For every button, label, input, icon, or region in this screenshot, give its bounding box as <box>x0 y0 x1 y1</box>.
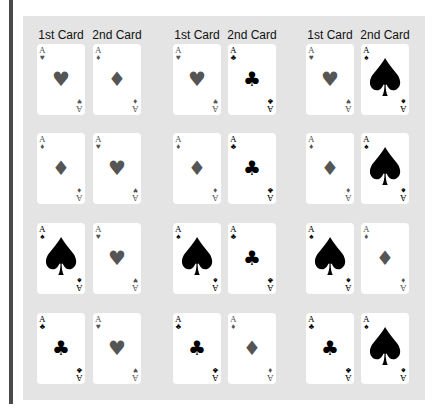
card-ace-of-diamonds: A ♦ ♦ A ♦ <box>173 133 221 204</box>
diamond-icon: ♦ <box>401 276 405 284</box>
heart-icon: ♥ <box>93 338 141 358</box>
diamond-icon: ♦ <box>361 248 409 268</box>
column-header-label: 2nd Card <box>355 28 415 42</box>
diamond-icon: ♦ <box>93 69 141 89</box>
card-index-bottom: A ♦ <box>400 276 407 292</box>
card-index-bottom: A ♥ <box>132 366 139 382</box>
card-ace-of-clubs: A ♣ ♣ A ♣ <box>306 313 354 384</box>
card-ace-of-spades: A ♠ ♠ A ♠ <box>173 223 221 294</box>
card-index-bottom: A ♦ <box>212 186 219 202</box>
card-index-bottom: A ♦ <box>76 186 83 202</box>
club-icon: ♣ <box>231 233 236 241</box>
column-header-label: 1st Card <box>300 28 360 42</box>
card-ace-of-clubs: A ♣ ♣ A ♣ <box>173 313 221 384</box>
card-ace-of-hearts: A ♥ ♥ A ♥ <box>93 223 141 294</box>
card-index-bottom: A ♥ <box>132 276 139 292</box>
spade-icon: ♠ <box>401 366 405 374</box>
card-ace-of-spades: A ♠ ♠ A ♠ <box>306 223 354 294</box>
club-icon: ♣ <box>345 366 350 374</box>
card-ace-of-hearts: A ♥ ♥ A ♥ <box>37 44 85 115</box>
card-index-bottom: A ♠ <box>400 366 407 382</box>
card-ace-of-spades: A ♠ ♠ A ♠ <box>361 44 409 115</box>
card-index-bottom: A ♥ <box>345 97 352 113</box>
card-ace-of-diamonds: A ♦ ♦ A ♦ <box>93 44 141 115</box>
diamond-icon: ♦ <box>173 158 221 178</box>
club-icon: ♣ <box>76 366 81 374</box>
card-index-bottom: A ♦ <box>345 186 352 202</box>
card-index-bottom: A ♣ <box>267 97 274 113</box>
club-icon: ♣ <box>228 69 276 89</box>
diamond-icon: ♦ <box>309 143 313 151</box>
club-icon: ♣ <box>231 54 236 62</box>
diamond-icon: ♦ <box>213 186 217 194</box>
diamond-icon: ♦ <box>40 143 44 151</box>
card-index-top: A ♣ <box>308 315 315 331</box>
club-icon: ♣ <box>267 97 272 105</box>
card-index-bottom: A ♠ <box>212 276 219 292</box>
club-icon: ♣ <box>306 338 354 358</box>
diamond-icon: ♦ <box>228 338 276 358</box>
card-index-bottom: A ♣ <box>267 276 274 292</box>
card-index-top: A ♣ <box>39 315 46 331</box>
heart-icon: ♥ <box>76 97 81 105</box>
column-header-label: 1st Card <box>167 28 227 42</box>
card-ace-of-diamonds: A ♦ ♦ A ♦ <box>228 313 276 384</box>
spade-icon: ♠ <box>361 320 409 372</box>
spade-icon: ♠ <box>346 276 350 284</box>
card-index-bottom: A ♥ <box>132 186 139 202</box>
club-icon: ♣ <box>228 158 276 178</box>
column-header-label: 2nd Card <box>87 28 147 42</box>
card-index-bottom: A ♥ <box>76 97 83 113</box>
card-index-top: A ♦ <box>230 315 237 331</box>
card-index-top: A ♥ <box>39 46 46 62</box>
spade-icon: ♠ <box>361 51 409 103</box>
heart-icon: ♥ <box>132 186 137 194</box>
diamond-icon: ♦ <box>346 186 350 194</box>
card-index-top: A ♥ <box>308 46 315 62</box>
club-icon: ♣ <box>309 323 314 331</box>
heart-icon: ♥ <box>96 143 101 151</box>
heart-icon: ♥ <box>306 69 354 89</box>
club-icon: ♣ <box>267 276 272 284</box>
diamond-icon: ♦ <box>268 366 272 374</box>
heart-icon: ♥ <box>176 54 181 62</box>
card-index-top: A ♥ <box>95 135 102 151</box>
column-header-label: 1st Card <box>31 28 91 42</box>
diamond-icon: ♦ <box>133 97 137 105</box>
spade-icon: ♠ <box>77 276 81 284</box>
diamond-icon: ♦ <box>176 143 180 151</box>
column-header-label: 2nd Card <box>222 28 282 42</box>
card-index-top: A ♥ <box>95 225 102 241</box>
heart-icon: ♥ <box>93 248 141 268</box>
club-icon: ♣ <box>267 186 272 194</box>
heart-icon: ♥ <box>93 158 141 178</box>
card-index-top: A ♣ <box>230 46 237 62</box>
card-ace-of-spades: A ♠ ♠ A ♠ <box>37 223 85 294</box>
card-ace-of-diamonds: A ♦ ♦ A ♦ <box>37 133 85 204</box>
club-icon: ♣ <box>176 323 181 331</box>
club-icon: ♣ <box>40 323 45 331</box>
heart-icon: ♥ <box>40 54 45 62</box>
card-ace-of-clubs: A ♣ ♣ A ♣ <box>228 133 276 204</box>
card-index-bottom: A ♠ <box>400 97 407 113</box>
heart-icon: ♥ <box>309 54 314 62</box>
card-ace-of-spades: A ♠ ♠ A ♠ <box>361 313 409 384</box>
club-icon: ♣ <box>37 338 85 358</box>
card-index-top: A ♦ <box>175 135 182 151</box>
diamond-icon: ♦ <box>96 54 100 62</box>
card-index-bottom: A ♠ <box>345 276 352 292</box>
card-index-bottom: A ♠ <box>76 276 83 292</box>
spade-icon: ♠ <box>37 230 85 282</box>
spade-icon: ♠ <box>401 186 405 194</box>
diamond-icon: ♦ <box>37 158 85 178</box>
heart-icon: ♥ <box>132 276 137 284</box>
spade-icon: ♠ <box>401 97 405 105</box>
heart-icon: ♥ <box>96 233 101 241</box>
spade-icon: ♠ <box>306 230 354 282</box>
card-index-top: A ♣ <box>230 225 237 241</box>
card-index-bottom: A ♠ <box>400 186 407 202</box>
card-index-top: A ♦ <box>39 135 46 151</box>
heart-icon: ♥ <box>37 69 85 89</box>
card-ace-of-diamonds: A ♦ ♦ A ♦ <box>306 133 354 204</box>
card-ace-of-clubs: A ♣ ♣ A ♣ <box>37 313 85 384</box>
